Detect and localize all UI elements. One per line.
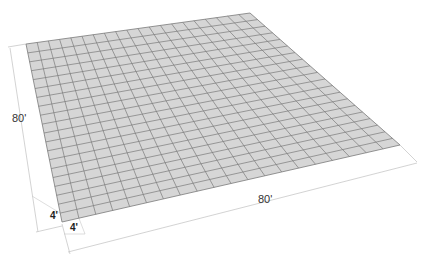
bottom-extension-line-left (62, 224, 70, 254)
bottom-cell-dimension-label: 4' (70, 222, 78, 233)
left-total-dimension-label: 80' (12, 112, 26, 124)
left-extension-line-top (8, 44, 26, 47)
bottom-total-dimension-label: 80' (258, 193, 272, 205)
bottom-extension-line-right (400, 145, 417, 162)
left-extension-line-bottom (36, 226, 62, 232)
left-cell-dimension-label: 4' (50, 210, 58, 221)
bottom-cell-extension-line (79, 218, 85, 234)
grid-diagram-canvas (0, 0, 423, 262)
